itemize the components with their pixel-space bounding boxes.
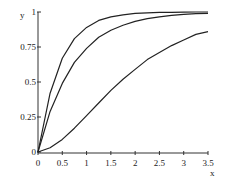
x-tick-label: 3	[181, 158, 186, 168]
x-tick-label: 0	[36, 158, 41, 168]
y-tick-label: 0.5	[25, 77, 37, 87]
x-tick-label: 2.5	[154, 158, 166, 168]
y-tick-label: 0.25	[20, 112, 36, 122]
curve-bottom	[38, 32, 208, 152]
axes: 00.511.522.533.500.250.50.751	[20, 7, 214, 168]
x-tick-label: 3.5	[202, 158, 214, 168]
x-tick-label: 0.5	[57, 158, 69, 168]
y-tick-label: 0.75	[20, 42, 36, 52]
x-tick-label: 1	[84, 158, 89, 168]
y-tick-label: 1	[32, 7, 37, 17]
x-axis-label: x	[210, 168, 215, 178]
y-axis-label: y	[20, 10, 25, 20]
curve-middle	[38, 13, 208, 152]
x-tick-label: 1.5	[105, 158, 117, 168]
x-tick-label: 2	[133, 158, 138, 168]
y-tick-label: 0	[32, 147, 37, 157]
curves	[38, 12, 208, 152]
line-chart: 00.511.522.533.500.250.50.751 y x	[0, 0, 228, 183]
